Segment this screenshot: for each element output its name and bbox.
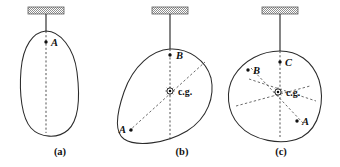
figure-container: A(a)BAc.g.(b)CBAc.g.(c) [0, 0, 340, 167]
body-outline-a [20, 31, 78, 136]
ray-line-b-1 [129, 62, 205, 131]
point-marker-b-a [129, 128, 132, 131]
point-label-c-b: B [252, 65, 260, 76]
panels-layer: A(a)BAc.g.(b)CBAc.g.(c) [20, 7, 321, 158]
panel-c: CBAc.g.(c) [228, 7, 321, 158]
point-marker-a-a [44, 40, 47, 43]
point-label-c-a: A [301, 116, 309, 127]
point-marker-c-a [295, 119, 298, 122]
ceiling-support-c [262, 7, 298, 14]
point-label-a-a: A [50, 37, 58, 48]
panel-a: A(a) [20, 7, 78, 158]
point-marker-b-b [168, 53, 171, 56]
point-label-b-b: B [175, 50, 183, 61]
panel-caption-a: (a) [54, 146, 67, 158]
ray-line-c-2 [249, 79, 316, 101]
ceiling-support-b [152, 7, 188, 14]
point-marker-c-b [246, 68, 249, 71]
panel-b: BAc.g.(b) [117, 7, 212, 158]
point-label-c-c: C [285, 57, 293, 68]
body-outline-c [228, 51, 321, 142]
suspension-center-of-gravity-figure: A(a)BAc.g.(b)CBAc.g.(c) [0, 0, 340, 167]
cg-core-b [169, 90, 172, 93]
point-label-b-a: A [118, 124, 126, 135]
cg-core-c [277, 91, 280, 94]
cg-label-c: c.g. [286, 87, 301, 98]
ceiling-support-a [28, 7, 64, 14]
cg-label-b: c.g. [178, 86, 193, 97]
panel-caption-c: (c) [275, 146, 287, 158]
panel-caption-b: (b) [176, 146, 189, 158]
point-marker-c-c [278, 60, 281, 63]
